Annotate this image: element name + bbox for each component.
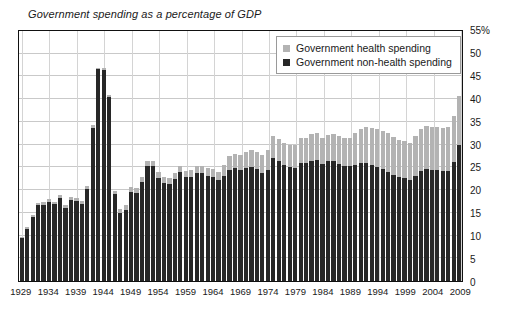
bar-segment-nonhealth bbox=[430, 170, 434, 281]
bar-stack bbox=[441, 128, 445, 281]
bar-stack bbox=[408, 143, 412, 281]
bar-segment-health bbox=[413, 136, 417, 175]
bar-segment-health bbox=[315, 133, 319, 160]
bar-stack bbox=[47, 199, 51, 281]
bar-segment-health bbox=[227, 156, 231, 169]
bar-segment-nonhealth bbox=[233, 168, 237, 281]
chart-figure: Government spending as a percentage of G… bbox=[0, 0, 524, 310]
bar-segment-nonhealth bbox=[36, 205, 40, 281]
bar-segment-nonhealth bbox=[386, 172, 390, 282]
bar-stack bbox=[140, 177, 144, 281]
bar-segment-nonhealth bbox=[413, 176, 417, 281]
bar-stack bbox=[167, 178, 171, 281]
bar-segment-nonhealth bbox=[107, 97, 111, 281]
bar-segment-health bbox=[381, 131, 385, 169]
bar-segment-nonhealth bbox=[41, 205, 45, 281]
chart-legend: Government health spending Government no… bbox=[276, 36, 461, 74]
bar-stack bbox=[102, 68, 106, 281]
bar-segment-nonhealth bbox=[342, 166, 346, 281]
bar-segment-nonhealth bbox=[211, 177, 215, 281]
bar-segment-nonhealth bbox=[200, 173, 204, 281]
bar-segment-health bbox=[206, 168, 210, 176]
y-axis-tick-label: 20 bbox=[470, 185, 481, 196]
bar-segment-nonhealth bbox=[370, 165, 374, 281]
bar-segment-health bbox=[249, 150, 253, 167]
bar-segment-health bbox=[424, 126, 428, 169]
x-axis-tick-label: 1994 bbox=[367, 286, 388, 297]
legend-label-health: Government health spending bbox=[296, 42, 431, 54]
bar-segment-nonhealth bbox=[282, 165, 286, 281]
y-axis-tick-label: 45 bbox=[470, 70, 481, 81]
bar-segment-nonhealth bbox=[85, 189, 89, 281]
bar-stack bbox=[41, 202, 45, 281]
bar-stack bbox=[63, 205, 67, 282]
bar-segment-nonhealth bbox=[74, 201, 78, 281]
bar-segment-health bbox=[435, 127, 439, 170]
bar-stack bbox=[375, 129, 379, 281]
bar-stack bbox=[282, 143, 286, 281]
bar-segment-nonhealth bbox=[441, 171, 445, 281]
bar-segment-health bbox=[402, 141, 406, 179]
bar-stack bbox=[52, 202, 56, 281]
bar-segment-nonhealth bbox=[227, 170, 231, 281]
bar-segment-nonhealth bbox=[206, 176, 210, 281]
bar-stack bbox=[271, 136, 275, 281]
bar-segment-nonhealth bbox=[91, 128, 95, 281]
bar-segment-nonhealth bbox=[435, 170, 439, 281]
bar-segment-nonhealth bbox=[129, 192, 133, 281]
bar-segment-nonhealth bbox=[419, 171, 423, 281]
bar-stack bbox=[151, 161, 155, 281]
bar-segment-health bbox=[304, 138, 308, 163]
bar-segment-health bbox=[260, 155, 264, 172]
bar-segment-nonhealth bbox=[337, 164, 341, 281]
bar-segment-nonhealth bbox=[271, 158, 275, 281]
bar-segment-health bbox=[299, 138, 303, 163]
bar-stack bbox=[364, 127, 368, 281]
bar-segment-nonhealth bbox=[151, 166, 155, 281]
bar-segment-health bbox=[233, 154, 237, 168]
bar-stack bbox=[348, 138, 352, 281]
y-axis: 0510152025303540455055% bbox=[466, 30, 524, 282]
bar-segment-nonhealth bbox=[113, 194, 117, 281]
x-axis-tick-label: 2009 bbox=[450, 286, 471, 297]
bar-segment-nonhealth bbox=[96, 69, 100, 281]
bar-segment-nonhealth bbox=[299, 163, 303, 281]
bar-stack bbox=[359, 129, 363, 281]
y-axis-tick-label: 55% bbox=[470, 25, 490, 36]
bar-segment-nonhealth bbox=[173, 179, 177, 281]
bar-segment-nonhealth bbox=[364, 163, 368, 281]
bar-stack bbox=[189, 170, 193, 281]
bar-segment-nonhealth bbox=[222, 176, 226, 281]
bar-segment-nonhealth bbox=[408, 180, 412, 281]
bar-stack bbox=[74, 198, 78, 281]
bar-stack bbox=[304, 138, 308, 281]
bar-segment-nonhealth bbox=[124, 210, 128, 281]
bar-segment-health bbox=[320, 138, 324, 164]
bar-stack bbox=[238, 155, 242, 281]
bar-segment-nonhealth bbox=[391, 175, 395, 281]
bar-segment-nonhealth bbox=[156, 178, 160, 281]
bar-stack bbox=[178, 166, 182, 281]
bar-stack bbox=[446, 127, 450, 281]
bar-segment-health bbox=[452, 116, 456, 162]
bar-segment-nonhealth bbox=[304, 163, 308, 281]
bar-segment-health bbox=[255, 152, 259, 169]
bar-segment-nonhealth bbox=[216, 180, 220, 281]
bar-stack bbox=[353, 133, 357, 281]
bar-segment-nonhealth bbox=[80, 204, 84, 281]
bar-segment-nonhealth bbox=[145, 166, 149, 281]
bar-stack bbox=[162, 177, 166, 281]
bar-segment-health bbox=[238, 155, 242, 170]
x-axis-tick-label: 1939 bbox=[65, 286, 86, 297]
bar-segment-nonhealth bbox=[69, 200, 73, 281]
legend-item-nonhealth: Government non-health spending bbox=[283, 55, 452, 69]
legend-swatch-nonhealth-icon bbox=[283, 59, 290, 66]
bar-segment-nonhealth bbox=[118, 213, 122, 281]
bar-stack bbox=[309, 134, 313, 281]
bar-stack bbox=[227, 156, 231, 281]
bar-stack bbox=[326, 135, 330, 281]
bar-segment-health bbox=[408, 143, 412, 181]
bar-segment-health bbox=[441, 128, 445, 171]
bar-segment-nonhealth bbox=[47, 202, 51, 281]
bar-segment-health bbox=[375, 129, 379, 167]
